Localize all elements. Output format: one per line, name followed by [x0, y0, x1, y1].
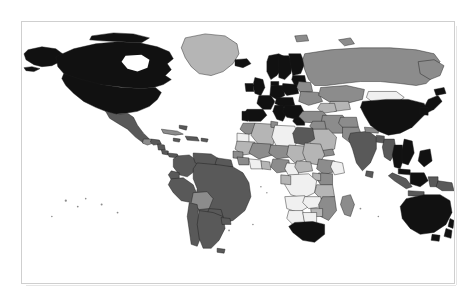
- country-portugal: [242, 111, 248, 121]
- country-nicaragua: [157, 144, 165, 150]
- country-guinea: [237, 157, 249, 165]
- country-central-african-republic: [295, 161, 313, 173]
- country-gabon: [281, 175, 291, 185]
- map-frame: [21, 21, 455, 284]
- country-svalbard: [295, 35, 309, 42]
- country-tasmania: [431, 234, 440, 241]
- world-choropleth-map: [22, 22, 454, 283]
- country-ghana: [261, 161, 271, 170]
- country-korea: [420, 107, 428, 115]
- frame-shadow-bottom: [26, 285, 456, 286]
- country-bangladesh: [376, 135, 384, 143]
- country-ivory-coast: [249, 159, 263, 169]
- world-map-figure: [0, 0, 470, 298]
- country-uruguay: [221, 218, 231, 225]
- country-malaysia: [398, 169, 410, 175]
- country-falklands: [217, 248, 225, 253]
- country-ireland: [245, 84, 254, 92]
- frame-shadow-right: [456, 26, 457, 285]
- country-belarus: [297, 82, 313, 93]
